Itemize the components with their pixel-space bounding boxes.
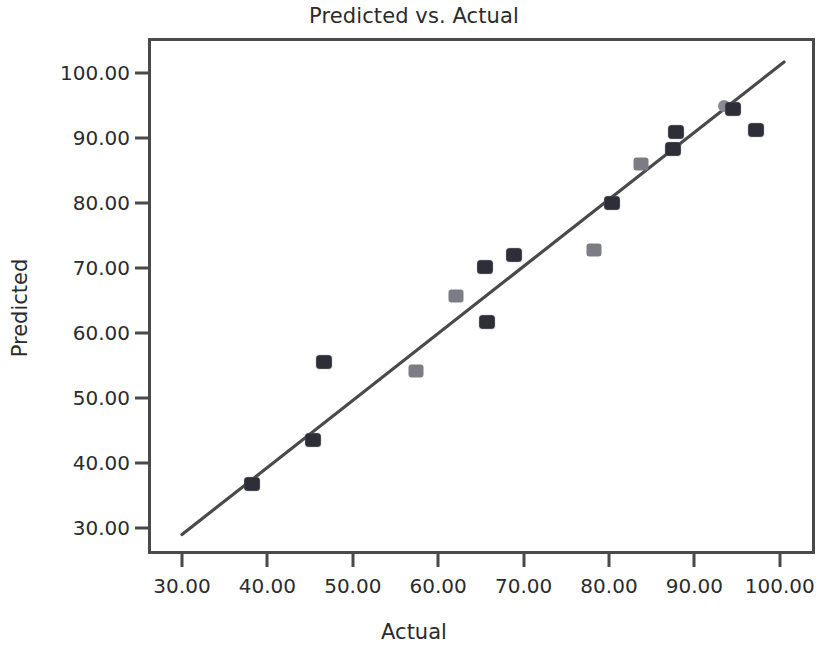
x-axis-tick-label: 90.00 (666, 574, 723, 598)
x-axis-tick-mark (608, 554, 611, 567)
x-axis-tick-label: 100.00 (745, 574, 815, 598)
y-axis-tick-label: 30.00 (73, 516, 130, 540)
y-axis-tick-mark (135, 72, 148, 75)
data-point (449, 289, 464, 302)
data-point (408, 364, 423, 377)
y-axis-tick-mark (135, 202, 148, 205)
y-axis-tick-label: 60.00 (73, 321, 130, 345)
data-point (305, 434, 320, 447)
y-axis-tick-mark (135, 462, 148, 465)
x-axis-tick-mark (351, 554, 354, 567)
y-axis-tick-label: 50.00 (73, 386, 130, 410)
x-axis-tick-mark (181, 554, 184, 567)
x-axis-tick-mark (522, 554, 525, 567)
y-axis-tick-mark (135, 137, 148, 140)
data-point (507, 249, 522, 262)
x-axis-tick-label: 70.00 (495, 574, 552, 598)
data-point (245, 477, 260, 490)
data-point (725, 102, 740, 115)
data-point (316, 356, 331, 369)
data-point (587, 244, 602, 257)
y-axis-tick-label: 90.00 (73, 126, 130, 150)
x-axis-tick-label: 80.00 (580, 574, 637, 598)
x-axis-tick-mark (693, 554, 696, 567)
data-point (479, 315, 494, 328)
y-axis-title: Predicted (8, 208, 32, 408)
y-axis-tick-mark (135, 527, 148, 530)
x-axis-tick-label: 50.00 (324, 574, 381, 598)
y-axis-tick-label: 80.00 (73, 191, 130, 215)
y-axis-tick-label: 70.00 (73, 256, 130, 280)
x-axis-title: Actual (0, 620, 828, 644)
x-axis-tick-label: 60.00 (410, 574, 467, 598)
data-point (605, 197, 620, 210)
x-axis-tick-mark (266, 554, 269, 567)
x-axis-tick-mark (778, 554, 781, 567)
x-axis-tick-mark (437, 554, 440, 567)
y-axis-tick-mark (135, 267, 148, 270)
y-axis-tick-mark (135, 397, 148, 400)
data-point (666, 143, 681, 156)
y-axis-tick-label: 40.00 (73, 451, 130, 475)
y-axis-tick-mark (135, 332, 148, 335)
x-axis-tick-label: 40.00 (239, 574, 296, 598)
y-axis-tick-label: 100.00 (60, 61, 130, 85)
data-point (634, 158, 649, 171)
data-point (478, 261, 493, 274)
x-axis-tick-label: 30.00 (153, 574, 210, 598)
scatter-chart: Predicted vs. Actual 30.0040.0050.0060.0… (0, 0, 828, 661)
data-point (748, 124, 763, 137)
regression-line (182, 62, 784, 535)
data-point (668, 125, 683, 138)
